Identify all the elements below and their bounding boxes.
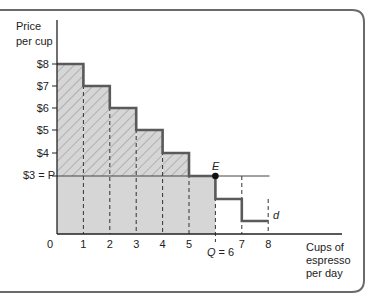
price-label: $3 = P bbox=[23, 169, 55, 181]
x-tick-label: 5 bbox=[186, 238, 192, 250]
x-tick-label: 7 bbox=[239, 238, 245, 250]
equilibrium-point bbox=[212, 173, 219, 180]
x-axis-label-line3: per day bbox=[306, 267, 343, 279]
y-axis-label-line2: per cup bbox=[16, 35, 53, 47]
x-axis-label-line2: espresso bbox=[306, 254, 351, 266]
x-tick-label: 3 bbox=[133, 238, 139, 250]
consumer-surplus-step bbox=[136, 130, 162, 176]
plot-area: $8$7$6$5$401234578 bbox=[37, 20, 342, 250]
x-tick-label: 2 bbox=[107, 238, 113, 250]
x-tick-label: 4 bbox=[160, 238, 166, 250]
quantity-label: Q = 6 bbox=[207, 246, 234, 258]
consumer-surplus-step bbox=[57, 64, 83, 176]
consumer-surplus-step bbox=[83, 86, 109, 176]
expenditure-area bbox=[57, 176, 215, 234]
demand-curve-label: d bbox=[273, 209, 280, 221]
demand-step-chart: $8$7$6$5$401234578 Price per cup Cups of… bbox=[0, 0, 371, 299]
y-tick-label: $8 bbox=[37, 58, 49, 70]
y-tick-label: $7 bbox=[37, 80, 49, 92]
x-tick-label: 1 bbox=[80, 238, 86, 250]
consumer-surplus-step bbox=[110, 108, 136, 176]
y-axis-label-line1: Price bbox=[16, 20, 41, 32]
x-axis-label-line1: Cups of bbox=[306, 241, 345, 253]
consumer-surplus-step bbox=[163, 153, 189, 176]
y-tick-label: $6 bbox=[37, 102, 49, 114]
y-tick-label: $5 bbox=[37, 124, 49, 136]
x-tick-label: 8 bbox=[265, 238, 271, 250]
y-tick-label: $4 bbox=[37, 147, 49, 159]
quantity-label-value: = 6 bbox=[216, 246, 235, 258]
x-tick-label: 0 bbox=[47, 238, 53, 250]
equilibrium-label: E bbox=[212, 160, 220, 172]
